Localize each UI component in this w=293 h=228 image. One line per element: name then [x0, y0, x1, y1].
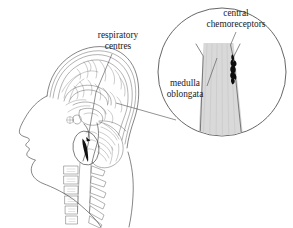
respiratory-centre-blob — [82, 139, 88, 163]
face-profile-outline — [19, 96, 101, 227]
diagram-canvas: central chemoreceptors medulla oblongata — [0, 0, 293, 228]
thalamus-detail — [84, 113, 98, 116]
respiratory-centres-label-group: respiratory centres — [88, 30, 138, 138]
head-sagittal-section — [19, 47, 138, 228]
cervical-spine-group — [64, 163, 106, 228]
skull-inner-table — [50, 51, 136, 144]
respiratory-centres-label-line1: respiratory — [98, 30, 139, 40]
spinous-processes — [89, 166, 106, 228]
neck-back-outline — [128, 152, 133, 227]
ventricle-contour — [73, 102, 106, 114]
dura-boundary — [53, 55, 132, 140]
inset-magnifier-group: central chemoreceptors medulla oblongata — [116, 8, 286, 145]
medulla-oblongata-label-line2: oblongata — [167, 89, 204, 99]
corpus-callosum-inner — [69, 90, 108, 105]
vertebrae-trabecular-detail — [67, 169, 75, 222]
central-chemoreceptors-label-line2: chemoreceptors — [207, 19, 266, 29]
respiratory-centres-label-line2: centres — [105, 41, 132, 51]
pituitary-region — [73, 115, 81, 124]
tentorium-line — [99, 121, 126, 131]
vertebral-bodies — [64, 166, 78, 224]
spinal-cord-posterior — [90, 164, 92, 213]
cerebellum-folia-group — [98, 124, 120, 164]
central-chemoreceptors-label-line1: central — [223, 8, 249, 18]
inset-connector-line — [116, 103, 176, 120]
medulla-oblongata-label-line1: medulla — [170, 78, 200, 88]
anatomy-diagram: central chemoreceptors medulla oblongata — [0, 0, 293, 228]
